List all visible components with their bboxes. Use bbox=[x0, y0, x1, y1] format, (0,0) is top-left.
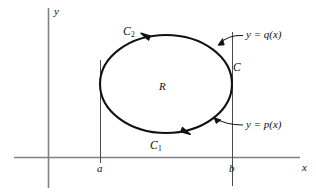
x-tick-label-a: a bbox=[97, 163, 103, 174]
curve-label-c2-subscript: 2 bbox=[131, 30, 135, 39]
upper-function-label: y = q(x) bbox=[246, 29, 282, 40]
y-axis-label: y bbox=[54, 6, 59, 17]
curve-label-c: C bbox=[233, 62, 241, 74]
curve-label-c1: C1 bbox=[150, 140, 161, 152]
region-label-r: R bbox=[159, 81, 166, 92]
x-axis-label: x bbox=[302, 162, 307, 173]
curve-label-c2-base: C bbox=[123, 25, 131, 37]
curve-label-c1-base: C bbox=[150, 139, 158, 151]
curve-label-c1-subscript: 1 bbox=[158, 144, 162, 153]
lower-function-label: y = p(x) bbox=[246, 119, 282, 130]
curve-label-c2: C2 bbox=[123, 26, 134, 38]
x-tick-label-b: b bbox=[229, 163, 235, 174]
green-theorem-figure: y x a b R C C2 C1 y = q(x) y = p(x) bbox=[0, 0, 316, 196]
leader-arrowhead-upper-function bbox=[218, 39, 224, 46]
leader-arrowhead-lower-function bbox=[214, 118, 221, 124]
boundary-curve-c bbox=[100, 35, 232, 133]
